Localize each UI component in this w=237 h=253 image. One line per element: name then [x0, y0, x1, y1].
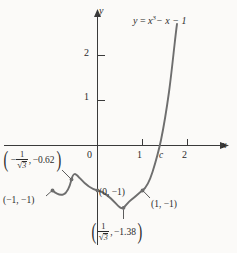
leader-line-one [144, 191, 151, 198]
open-paren: ( [91, 223, 96, 241]
square-root-group: √ 3 [17, 161, 26, 170]
close-paren: ) [137, 223, 142, 241]
equation-remainder: − x − 1 [156, 15, 186, 26]
square-root-group: √ 3 [99, 233, 108, 242]
point-label-zero: (0, −1) [99, 188, 125, 198]
fraction-one-over-root-three: 1 √ 3 [16, 150, 27, 170]
x-axis-label: x [222, 140, 226, 150]
annotation-local-max: ( − 1 √ 3 , −0.62 ) [2, 150, 62, 170]
plot-canvas [0, 0, 237, 253]
y-axis-label: y [99, 6, 103, 16]
fraction-denominator: √ 3 [98, 232, 109, 242]
y-coordinate-value: −0.62 [33, 155, 55, 165]
coordinate-separator: , [29, 155, 31, 165]
leader-line-neg-one [46, 191, 51, 196]
curve-equation-label: y = x3− x − 1 [133, 16, 186, 26]
leader-line-local-max [62, 170, 71, 179]
x-tick-label-1: 1 [137, 150, 142, 160]
point-label-neg-one: (−1, −1) [3, 196, 34, 206]
close-paren: ) [56, 151, 61, 169]
open-paren: ( [3, 151, 8, 169]
fraction-one-over-root-three: 1 √ 3 [98, 222, 109, 242]
fraction-denominator: √ 3 [16, 160, 27, 170]
radicand: 3 [103, 233, 108, 242]
y-tick-label-2: 2 [84, 48, 89, 58]
point-label-one: (1, −1) [151, 200, 177, 210]
x-tick-label-2: 2 [182, 150, 187, 160]
equation-equals: = [137, 15, 148, 26]
graph-figure: x y 0 1 2 c 1 2 y = x3− x − 1 (−1, −1) (… [0, 0, 237, 253]
root-marker-label-c: c [159, 151, 163, 161]
coordinate-separator: , [110, 227, 112, 237]
y-tick-label-1: 1 [84, 92, 89, 102]
point-dot-local-min [122, 206, 126, 210]
annotation-local-min: ( 1 √ 3 , −1.38 ) [90, 222, 144, 242]
x-tick-label-0: 0 [87, 150, 92, 160]
fraction-numerator: 1 [100, 222, 106, 231]
radicand: 3 [22, 161, 27, 170]
fraction-numerator: 1 [19, 150, 25, 159]
y-coordinate-value: −1.38 [114, 227, 136, 237]
